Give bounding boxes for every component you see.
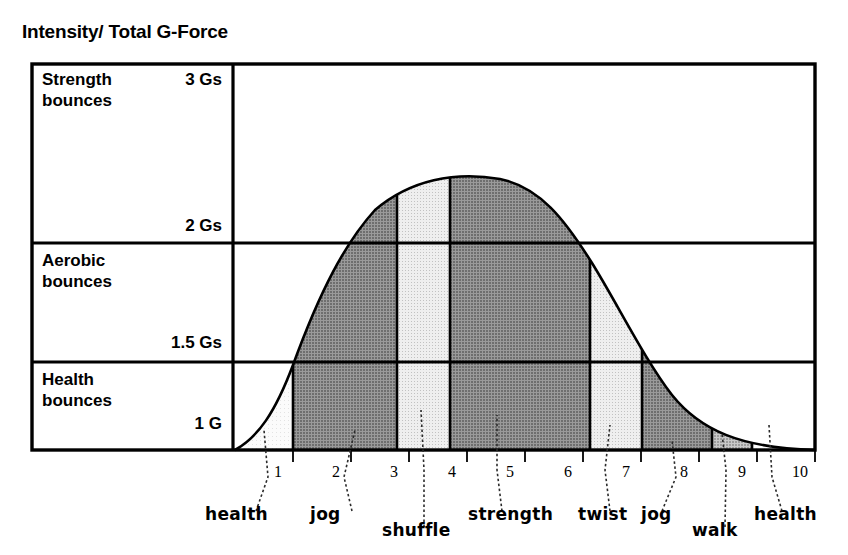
x-tick-4: 4 bbox=[437, 463, 467, 481]
annotation-strength: strength bbox=[468, 504, 553, 524]
x-axis-ticks bbox=[293, 450, 815, 462]
annotation-shuffle: shuffle bbox=[382, 520, 451, 540]
y-tick-3gs: 3 Gs bbox=[118, 70, 222, 90]
annotation-health-right: health bbox=[754, 504, 817, 524]
x-tick-3: 3 bbox=[379, 463, 409, 481]
x-tick-9: 9 bbox=[727, 463, 757, 481]
x-tick-7: 7 bbox=[611, 463, 641, 481]
band-label-health: Healthbounces bbox=[42, 370, 222, 411]
annotation-walk: walk bbox=[692, 520, 738, 540]
annotation-jog-right: jog bbox=[641, 504, 672, 524]
band-label-aerobic: Aerobicbounces bbox=[42, 251, 222, 292]
y-tick-1p5gs: 1.5 Gs bbox=[108, 333, 222, 353]
x-tick-10: 10 bbox=[783, 463, 817, 481]
x-tick-1: 1 bbox=[263, 463, 293, 481]
y-tick-2gs: 2 Gs bbox=[118, 216, 222, 236]
y-tick-1g: 1 G bbox=[118, 414, 222, 434]
x-tick-2: 2 bbox=[321, 463, 351, 481]
intensity-g-force-chart: Strengthbounces 3 Gs 2 Gs Aerobicbounces… bbox=[0, 0, 848, 555]
x-tick-8: 8 bbox=[669, 463, 699, 481]
annotation-jog-left: jog bbox=[310, 504, 341, 524]
annotation-health-left: health bbox=[205, 504, 268, 524]
x-tick-5: 5 bbox=[495, 463, 525, 481]
annotation-twist: twist bbox=[578, 504, 627, 524]
x-tick-6: 6 bbox=[553, 463, 583, 481]
